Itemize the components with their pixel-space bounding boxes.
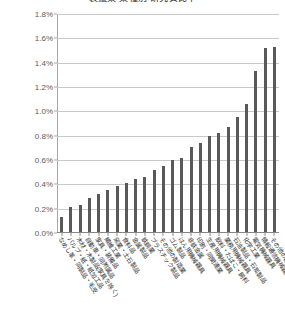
bar-slot[interactable] (140, 14, 149, 233)
bar[interactable] (180, 158, 183, 233)
bar[interactable] (245, 104, 248, 233)
bar[interactable] (227, 127, 230, 233)
bar[interactable] (88, 198, 91, 233)
bar[interactable] (190, 147, 193, 233)
bar-slot[interactable] (224, 14, 233, 233)
bar[interactable] (208, 136, 211, 233)
bar[interactable] (264, 48, 267, 233)
bar-slot[interactable] (187, 14, 196, 233)
bar[interactable] (79, 205, 82, 233)
bar-slot[interactable] (261, 14, 270, 233)
bar[interactable] (153, 170, 156, 233)
bar-slot[interactable] (131, 14, 140, 233)
bar-chart: 製造業 業種別 研究費比率 0.0%0.2%0.4%0.6%0.8%1.0%1.… (0, 0, 285, 317)
bar[interactable] (116, 186, 119, 233)
bar-slot[interactable] (66, 14, 75, 233)
bar-slot[interactable] (242, 14, 251, 233)
x-axis-line (57, 232, 279, 233)
bar-series (57, 14, 279, 233)
bar[interactable] (236, 117, 239, 233)
bar[interactable] (217, 133, 220, 233)
bar-slot[interactable] (177, 14, 186, 233)
bar-slot[interactable] (214, 14, 223, 233)
bar-slot[interactable] (205, 14, 214, 233)
bar-slot[interactable] (168, 14, 177, 233)
bar-slot[interactable] (251, 14, 260, 233)
y-tick-label: 1.8% (35, 10, 53, 19)
bar-slot[interactable] (233, 14, 242, 233)
y-tick-label: 1.6% (35, 34, 53, 43)
bar[interactable] (273, 47, 276, 233)
y-tick-label: 0.8% (35, 131, 53, 140)
bar[interactable] (106, 190, 109, 233)
bar[interactable] (254, 71, 257, 233)
bar[interactable] (97, 194, 100, 233)
y-tick-label: 0.6% (35, 156, 53, 165)
bar-slot[interactable] (159, 14, 168, 233)
bar-slot[interactable] (76, 14, 85, 233)
bar-slot[interactable] (113, 14, 122, 233)
bar-slot[interactable] (150, 14, 159, 233)
plot-area: 0.0%0.2%0.4%0.6%0.8%1.0%1.2%1.4%1.6%1.8% (57, 14, 279, 233)
bar[interactable] (134, 179, 137, 233)
y-tick-label: 1.2% (35, 83, 53, 92)
x-axis-labels: なめし革・同製品・毛皮パルプ・紙・紙加工品木材・木製品(家具を除く)自動車・同附… (57, 236, 279, 317)
y-tick-label: 1.0% (35, 107, 53, 116)
bar[interactable] (199, 143, 202, 233)
y-tick-label: 0.0% (35, 229, 53, 238)
bar[interactable] (69, 207, 72, 233)
bar[interactable] (125, 183, 128, 233)
bar-slot[interactable] (196, 14, 205, 233)
bar-slot[interactable] (122, 14, 131, 233)
bar[interactable] (60, 217, 63, 233)
bar-slot[interactable] (270, 14, 279, 233)
bar-slot[interactable] (94, 14, 103, 233)
bar-slot[interactable] (85, 14, 94, 233)
bar-slot[interactable] (57, 14, 66, 233)
bar-slot[interactable] (103, 14, 112, 233)
bar[interactable] (143, 177, 146, 233)
bar[interactable] (162, 166, 165, 233)
y-tick-label: 0.4% (35, 180, 53, 189)
chart-title: 製造業 業種別 研究費比率 (0, 0, 285, 2)
bar[interactable] (171, 160, 174, 233)
y-tick-label: 0.2% (35, 204, 53, 213)
y-tick-label: 1.4% (35, 58, 53, 67)
